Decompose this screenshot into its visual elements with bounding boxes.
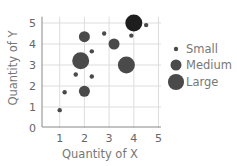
bubble-chart: 12345 012345 Quantity of X Quantity of Y… bbox=[0, 0, 237, 166]
y-tick-label: 0 bbox=[29, 122, 36, 135]
legend: SmallMediumLarge bbox=[168, 42, 232, 90]
y-tick-label: 1 bbox=[29, 101, 36, 114]
bubble-small bbox=[62, 90, 66, 94]
y-tick-label: 4 bbox=[29, 38, 36, 51]
legend-marker-medium bbox=[171, 60, 182, 71]
legend-label-large: Large bbox=[186, 75, 218, 89]
y-tick-label: 2 bbox=[29, 80, 36, 93]
x-tick-label: 2 bbox=[81, 132, 88, 145]
x-tick-label: 5 bbox=[155, 132, 162, 145]
bubble-medium bbox=[79, 86, 90, 97]
legend-label-medium: Medium bbox=[186, 58, 232, 72]
bubble-small bbox=[58, 108, 62, 112]
bubble-small bbox=[90, 74, 94, 78]
y-axis-label: Quantity of Y bbox=[6, 29, 20, 105]
legend-marker-large bbox=[168, 74, 184, 90]
y-tick-labels: 012345 bbox=[29, 17, 36, 135]
bubble-medium bbox=[109, 39, 120, 50]
bubble-large bbox=[118, 57, 135, 74]
bubble-small bbox=[74, 72, 78, 76]
bubble-small bbox=[144, 23, 148, 27]
bubble-large bbox=[125, 15, 142, 32]
x-tick-label: 4 bbox=[130, 132, 137, 145]
legend-marker-small bbox=[174, 47, 178, 51]
bubble-small bbox=[90, 49, 94, 53]
y-tick-label: 5 bbox=[29, 17, 36, 30]
x-axis-label: Quantity of X bbox=[62, 147, 138, 161]
bubble-small bbox=[129, 33, 133, 37]
bubble-large bbox=[72, 52, 89, 69]
bubble-small bbox=[102, 31, 106, 35]
x-tick-label: 1 bbox=[56, 132, 63, 145]
y-tick-label: 3 bbox=[29, 59, 36, 72]
legend-label-small: Small bbox=[186, 42, 218, 56]
bubble-medium bbox=[79, 31, 90, 42]
x-tick-label: 3 bbox=[106, 132, 113, 145]
x-tick-labels: 12345 bbox=[56, 132, 162, 145]
data-points bbox=[58, 15, 149, 113]
